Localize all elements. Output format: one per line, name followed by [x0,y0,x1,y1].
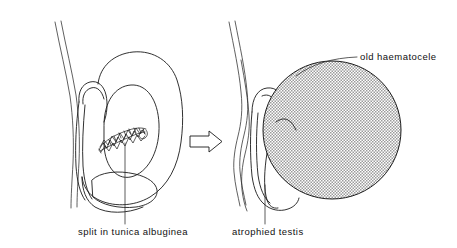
scrotal-sac-outline-left [82,52,183,205]
split-in-tunica-albuginea-mark [99,128,147,153]
label-split-in-tunica-albuginea: split in tunica albuginea [78,227,188,237]
spermatic-cord-right [229,21,249,211]
spermatic-cord-left [55,21,79,208]
right-arrow-icon [190,131,222,152]
old-haematocele-mass [263,61,401,199]
label-atrophied-testis: atrophied testis [232,227,304,237]
epididymis-left [76,82,107,200]
label-old-haematocele: old haematocele [360,52,436,62]
anatomy-illustration [0,0,457,248]
testis-outline-left [104,85,159,177]
diagram-canvas: split in tunica albuginea atrophied test… [0,0,457,248]
left-panel-before [55,21,183,224]
